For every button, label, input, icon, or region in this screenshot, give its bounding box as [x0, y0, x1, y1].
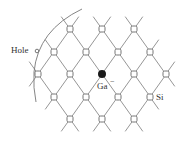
silicon-atom [163, 71, 169, 77]
bond [102, 29, 118, 52]
lattice-diagram [0, 0, 187, 141]
silicon-atom [51, 94, 57, 100]
hole-marker [35, 49, 39, 53]
silicon-label: Si [156, 93, 164, 102]
bond [70, 29, 86, 52]
bond [134, 74, 150, 97]
gallium-atom [98, 70, 106, 78]
atoms [35, 26, 169, 122]
silicon-atom [67, 116, 73, 122]
silicon-atom [147, 94, 153, 100]
gallium-label: Ga [97, 82, 108, 91]
silicon-atom [131, 71, 137, 77]
bond [54, 75, 70, 98]
silicon-atom [67, 71, 73, 77]
bond [38, 74, 54, 97]
silicon-atom [131, 116, 137, 122]
silicon-atom [115, 94, 121, 100]
bond [118, 75, 134, 98]
silicon-atom [51, 49, 57, 55]
bond [70, 74, 86, 97]
silicon-atom [83, 49, 89, 55]
silicon-atom [147, 49, 153, 55]
silicon-atom [115, 49, 121, 55]
gallium-charge: − [110, 78, 115, 86]
silicon-atom [35, 71, 41, 77]
silicon-atom [99, 26, 105, 32]
silicon-atom [83, 94, 89, 100]
bond [86, 30, 102, 53]
hole-label: Hole [11, 46, 29, 55]
silicon-atom [67, 26, 73, 32]
silicon-atom [99, 116, 105, 122]
bond [118, 30, 134, 53]
silicon-atom [131, 26, 137, 32]
bond [134, 29, 150, 52]
bond [54, 30, 70, 53]
